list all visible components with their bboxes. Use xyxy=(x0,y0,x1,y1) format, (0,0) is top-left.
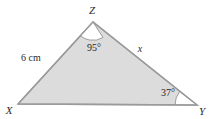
side-label-zy: x xyxy=(137,43,143,54)
geometry-figure: Z X Y 6 cm x 95° 37° xyxy=(0,0,212,119)
angle-label-z: 95° xyxy=(87,42,101,53)
vertex-label-z: Z xyxy=(89,4,96,16)
angle-label-y: 37° xyxy=(161,87,175,98)
side-label-xz: 6 cm xyxy=(21,52,41,63)
triangle-diagram-svg: Z X Y 6 cm x 95° 37° xyxy=(0,0,212,119)
vertex-label-y: Y xyxy=(199,105,207,117)
vertex-label-x: X xyxy=(5,104,14,116)
